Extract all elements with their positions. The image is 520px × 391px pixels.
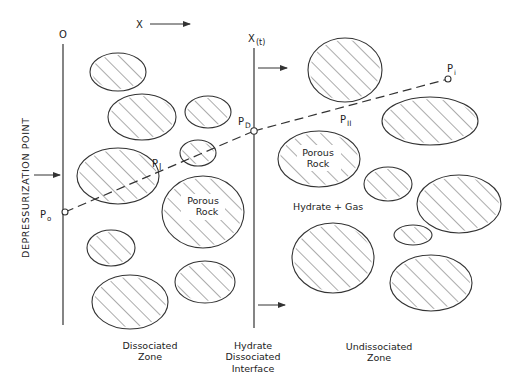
rock-grain-hatch <box>392 257 470 309</box>
pD-label-sub: D <box>245 121 251 130</box>
porous-rock-label-left-line1: Porous <box>187 195 219 206</box>
rock-grain-hatch <box>419 177 499 231</box>
pi-label-sub: i <box>454 69 456 77</box>
interface-caption-line2: Dissociated <box>226 351 281 362</box>
rock-grain-hatch <box>396 227 430 243</box>
pI-label-sub: I <box>159 163 161 172</box>
x-direction-label: X <box>136 19 143 30</box>
pressure-point-p0 <box>62 209 68 215</box>
p0-label: P <box>40 209 46 220</box>
pI-label: P <box>152 158 158 169</box>
depressurization-point-label: DEPRESSURIZATION POINT <box>20 117 31 258</box>
rock-grain-hatch <box>177 263 233 301</box>
rock-grain-hatch <box>79 150 157 202</box>
p0-label-sub: o <box>47 215 51 223</box>
hydrate-gas-label: Hydrate + Gas <box>293 201 363 212</box>
interface-label: X <box>248 33 255 44</box>
origin-label: O <box>59 29 67 40</box>
rock-grain-hatch <box>182 142 214 164</box>
interface-label-sub: (t) <box>256 38 265 47</box>
rock-grain-hatch <box>89 232 133 264</box>
interface-caption-line1: Hydrate <box>234 340 272 351</box>
pressure-point-pi <box>445 76 451 82</box>
rock-grain-hatch <box>110 96 174 138</box>
dissociated-zone-caption-line2: Zone <box>138 351 162 362</box>
pressure-point-pd <box>251 128 257 134</box>
hydrate-dissociation-diagram: O X X (t) DEPRESSURIZATION POINT Porous … <box>0 0 520 391</box>
rock-grain-hatch <box>187 98 229 126</box>
pD-label: P <box>238 116 244 127</box>
rock-grain-hatch <box>310 40 380 100</box>
rock-grain-hatch <box>384 99 476 143</box>
interface-caption-line3: Interface <box>232 363 275 374</box>
undissociated-zone-caption-line1: Undissociated <box>346 341 413 352</box>
pII-label-sub: II <box>347 119 351 128</box>
porous-rock-label-right-line1: Porous <box>302 147 334 158</box>
pi-label: P <box>447 63 453 74</box>
rock-grain-hatch <box>94 277 166 327</box>
dissociated-zone-caption-line1: Dissociated <box>123 340 178 351</box>
pII-label: P <box>340 114 346 125</box>
porous-rock-label-left-line2: Rock <box>196 206 219 217</box>
rock-grain-hatch <box>366 169 410 199</box>
rock-grain-hatch <box>92 55 144 89</box>
porous-rock-label-right-line2: Rock <box>307 158 330 169</box>
rock-grain-hatch <box>294 225 372 291</box>
undissociated-zone-caption-line2: Zone <box>367 352 391 363</box>
